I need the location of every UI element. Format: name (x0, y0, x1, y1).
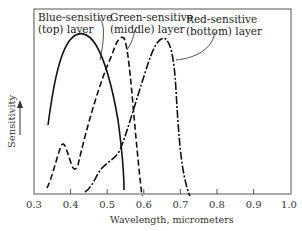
tick-label: 0.4 (63, 199, 79, 210)
tick-label: 0.7 (172, 199, 188, 210)
green-label-line2: (middle) layer (110, 24, 185, 35)
blue-label-line2: (top) layer (38, 24, 94, 35)
tick-label: 0.9 (246, 199, 262, 210)
blue-label-line1: Blue-sensitive (38, 12, 112, 23)
red-sensitive-curve (85, 38, 190, 196)
green-sensitive-curve (47, 37, 142, 196)
blue-sensitive-curve (48, 34, 124, 190)
arrowhead-icon (17, 100, 23, 108)
x-axis-label: Wavelength, micrometers (110, 214, 234, 225)
tick-label: 0.5 (99, 199, 115, 210)
red-label-line1: Red-sensitive (186, 14, 257, 25)
red-label-line2: (bottom) layer (186, 26, 262, 37)
y-axis-label: Sensitivity (6, 95, 17, 148)
tick-label: 0.3 (26, 199, 42, 210)
tick-label: 0.6 (136, 199, 152, 210)
green-label-line1: Green-sensitive (110, 12, 193, 23)
tick-label: 1.0 (281, 199, 297, 210)
tick-label: 0.8 (209, 199, 225, 210)
x-ticks (71, 189, 254, 194)
